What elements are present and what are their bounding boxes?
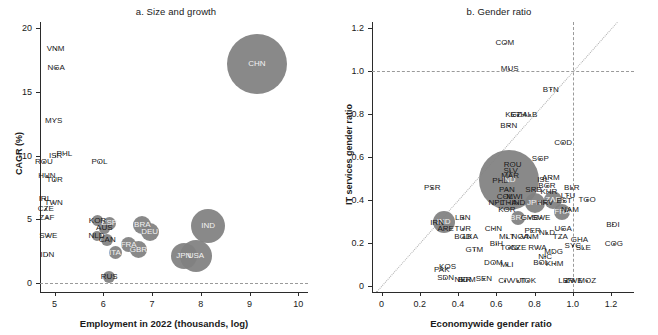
point-label: MUS xyxy=(501,65,519,73)
point-label: SWE xyxy=(532,214,550,222)
point-label: KOR xyxy=(498,206,515,214)
y-axis-tick-label: 0 xyxy=(359,281,364,291)
point-label: MYS xyxy=(45,117,62,125)
x-axis-tick-label: 0.2 xyxy=(414,299,427,309)
x-axis-tick xyxy=(496,292,497,296)
panel-a-title: a. Size and growth xyxy=(0,6,330,17)
panel-b-x-axis-label: Economywide gender ratio xyxy=(360,318,622,329)
point-label: PHL xyxy=(492,177,508,185)
x-axis-tick-label: 1.2 xyxy=(605,299,618,309)
x-axis-tick-label: 10 xyxy=(293,299,303,309)
point-label: PSR xyxy=(424,184,440,192)
y-axis-tick-label: 0.8 xyxy=(351,109,364,119)
x-axis-tick xyxy=(201,292,202,296)
point-label: DEU xyxy=(141,228,158,236)
point-label: CZE xyxy=(38,205,54,213)
x-axis-tick xyxy=(382,292,383,296)
point-label: HRV xyxy=(537,199,554,207)
x-axis-tick-label: 1.0 xyxy=(567,299,580,309)
y-axis-tick xyxy=(36,92,40,93)
panel-gender-ratio: b. Gender ratio IT services gender ratio… xyxy=(330,0,658,335)
point-label: SLE xyxy=(576,244,591,252)
point-label: NAM xyxy=(561,206,579,214)
point-label: JPN xyxy=(176,252,191,260)
point-label: LKA xyxy=(463,233,478,241)
x-axis-line xyxy=(372,292,634,293)
x-axis-tick-label: 9 xyxy=(247,299,252,309)
point-label: ITA xyxy=(109,249,121,257)
figure-root: a. Size and growth CAGR (%) Employment i… xyxy=(0,0,658,335)
point-label: FRA xyxy=(121,241,137,249)
point-label: TUR xyxy=(46,176,62,184)
point-label: SDN xyxy=(437,274,454,282)
point-label: MLI xyxy=(500,261,513,269)
point-label: COM xyxy=(496,39,515,47)
point-label: IDN xyxy=(40,251,54,259)
y-axis-tick-label: 0.2 xyxy=(351,238,364,248)
x-axis-tick xyxy=(298,292,299,296)
x-axis-tick xyxy=(420,292,421,296)
y-axis-tick xyxy=(368,71,372,72)
point-label: BDI xyxy=(606,221,619,229)
y-axis-tick-label: 10 xyxy=(22,151,32,161)
point-label: BRN xyxy=(500,122,517,130)
x-axis-tick-label: 6 xyxy=(101,299,106,309)
point-label: COD xyxy=(554,139,572,147)
point-label: ALB xyxy=(522,111,537,119)
x-axis-tick xyxy=(103,292,104,296)
x-axis-tick xyxy=(458,292,459,296)
point-label: ROU xyxy=(35,158,53,166)
y-axis-tick-label: 0.6 xyxy=(351,152,364,162)
y-axis-tick-label: 5 xyxy=(27,214,32,224)
point-label: KHM xyxy=(546,260,564,268)
point-label: NLD xyxy=(89,232,105,240)
x-axis-tick-label: 7 xyxy=(150,299,155,309)
x-axis-tick-label: 0.6 xyxy=(490,299,503,309)
x-axis-tick-label: 0.4 xyxy=(452,299,465,309)
point-label: BDM xyxy=(458,276,476,284)
x-axis-tick xyxy=(535,292,536,296)
panel-size-and-growth: a. Size and growth CAGR (%) Employment i… xyxy=(0,0,330,335)
point-label: VNM xyxy=(521,233,539,241)
panel-b-title: b. Gender ratio xyxy=(330,6,658,17)
x-axis-tick xyxy=(573,292,574,296)
x-axis-tick-label: 5 xyxy=(52,299,57,309)
point-label: ZAF xyxy=(39,214,54,222)
x-axis-line xyxy=(40,292,308,293)
y-axis-line xyxy=(372,22,373,292)
y-axis-tick xyxy=(368,28,372,29)
point-label: MOZ xyxy=(578,277,596,285)
y-axis-tick xyxy=(368,243,372,244)
point-label: BTN xyxy=(543,86,559,94)
point-label: SWE xyxy=(39,232,57,240)
point-label: CZE xyxy=(510,244,526,252)
y-axis-tick xyxy=(368,157,372,158)
point-label: POL xyxy=(91,158,107,166)
point-label: KOS xyxy=(439,263,456,271)
point-label: RUS xyxy=(101,273,118,281)
y-axis-tick xyxy=(368,286,372,287)
point-label: LBN xyxy=(455,214,471,222)
x-axis-tick-label: 8 xyxy=(198,299,203,309)
panel-b-plot-area: 00.20.40.60.81.01.200.20.40.60.81.01.2IN… xyxy=(372,22,634,292)
x-axis-tick xyxy=(250,292,251,296)
panel-a-plot-area: 567891005101520CHNINDUSAJPNBRADEUGBRFRAE… xyxy=(40,22,308,292)
y-axis-tick-label: 0.4 xyxy=(351,195,364,205)
reference-line-horizontal xyxy=(40,283,308,284)
y-axis-tick xyxy=(36,283,40,284)
panel-a-x-axis-label: Employment in 2022 (thousands, log) xyxy=(30,318,298,329)
x-axis-tick xyxy=(152,292,153,296)
x-axis-tick xyxy=(55,292,56,296)
point-label: SGP xyxy=(532,155,549,163)
x-axis-tick-label: 0.8 xyxy=(528,299,541,309)
point-label: GTM xyxy=(465,246,483,254)
point-label: NGA xyxy=(47,64,64,72)
x-axis-tick-label: 0 xyxy=(379,299,384,309)
point-label: IND xyxy=(201,222,215,230)
point-label: KHR xyxy=(540,188,557,196)
point-label: TOK xyxy=(520,277,536,285)
y-axis-tick-label: 1.0 xyxy=(351,66,364,76)
point-label: SEN xyxy=(476,275,492,283)
reference-line-vertical xyxy=(573,22,574,292)
y-axis-tick-label: 20 xyxy=(22,23,32,33)
